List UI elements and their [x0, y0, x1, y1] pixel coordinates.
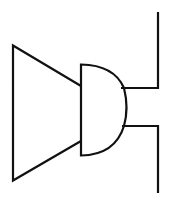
- buzzer-symbol-diagram: [0, 0, 172, 204]
- horn-trapezoid: [13, 46, 81, 181]
- d-shaped-body: [81, 65, 127, 156]
- lower-lead-wire: [122, 126, 158, 193]
- upper-lead-wire: [121, 12, 158, 88]
